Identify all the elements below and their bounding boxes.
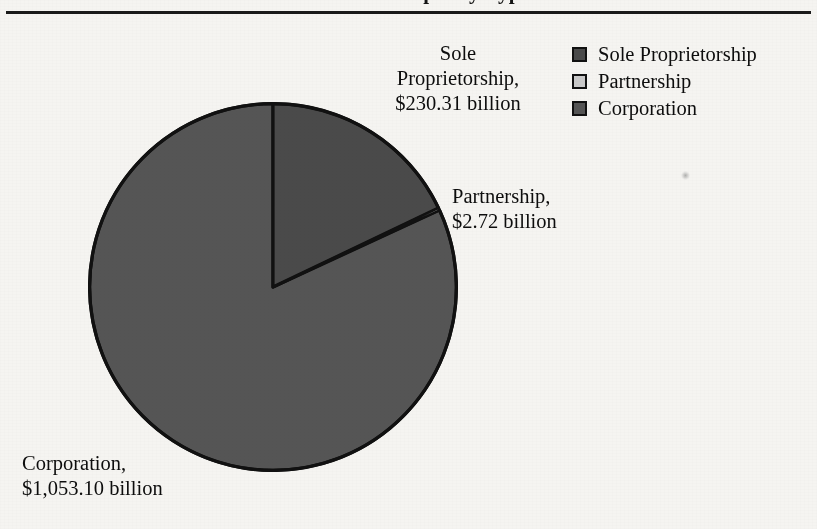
callout-sole-proprietorship: Sole Proprietorship, $230.31 billion bbox=[352, 41, 564, 116]
legend-item-label: Sole Proprietorship bbox=[598, 44, 757, 64]
pie-slices bbox=[90, 104, 457, 471]
pie-chart bbox=[88, 102, 458, 472]
legend-item-label: Corporation bbox=[598, 98, 697, 118]
legend-swatch-icon bbox=[572, 74, 587, 89]
scan-artifact-speck bbox=[681, 171, 690, 180]
legend-item-partnership[interactable]: Partnership bbox=[572, 71, 812, 91]
legend-item-sole-proprietorship[interactable]: Sole Proprietorship bbox=[572, 44, 812, 64]
legend-item-corporation[interactable]: Corporation bbox=[572, 98, 812, 118]
chart-page: Business Receipts by Type Sole Proprieto… bbox=[0, 0, 817, 529]
page-title-cropped: Business Receipts by Type bbox=[0, 0, 817, 11]
header-divider bbox=[6, 11, 811, 14]
legend-swatch-icon bbox=[572, 101, 587, 116]
legend-swatch-icon bbox=[572, 47, 587, 62]
legend: Sole Proprietorship Partnership Corporat… bbox=[572, 44, 812, 125]
legend-item-label: Partnership bbox=[598, 71, 691, 91]
pie-chart-svg bbox=[88, 102, 458, 472]
page-title: Business Receipts by Type bbox=[0, 0, 817, 5]
callout-partnership: Partnership, $2.72 billion bbox=[452, 184, 617, 234]
callout-corporation: Corporation, $1,053.10 billion bbox=[22, 451, 272, 501]
